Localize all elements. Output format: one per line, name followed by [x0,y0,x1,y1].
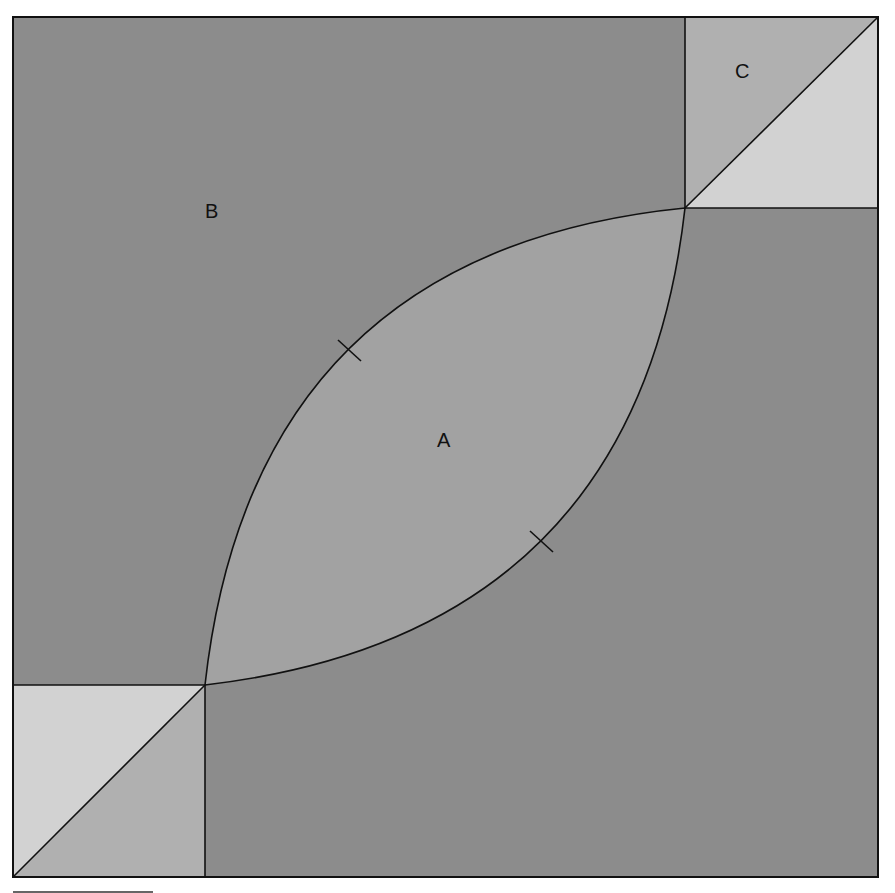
label-a: A [437,429,451,451]
label-c: C [735,60,749,82]
quilt-block-diagram: A B C [0,0,895,893]
label-b: B [205,200,218,222]
